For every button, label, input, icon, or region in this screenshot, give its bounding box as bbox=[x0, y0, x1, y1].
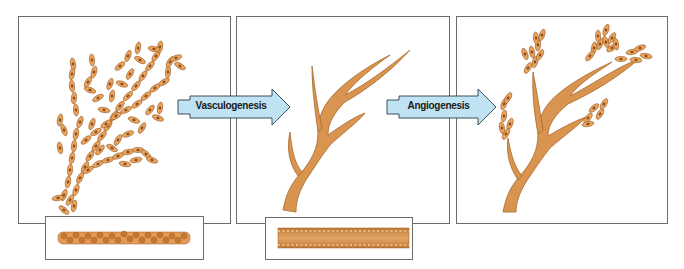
cell-aggregate-strip bbox=[58, 231, 190, 244]
vessel-tree-sprouting bbox=[498, 23, 652, 212]
diagram-artwork bbox=[0, 0, 684, 269]
angiogenesis-label: Angiogenesis bbox=[399, 100, 478, 111]
vessel-tube-strip bbox=[278, 228, 409, 248]
vessel-tree-primitive bbox=[283, 50, 410, 212]
cell-cluster-network bbox=[52, 41, 187, 216]
vasculogenesis-label: Vasculogenesis bbox=[190, 100, 272, 111]
